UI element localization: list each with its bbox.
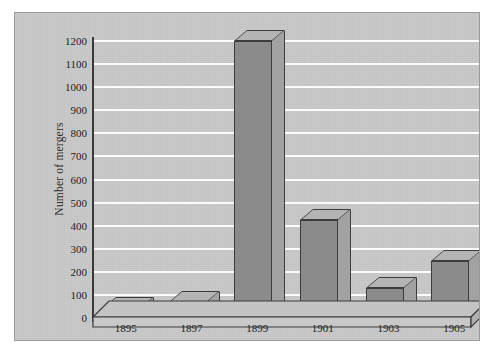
gridline: [93, 271, 480, 273]
figure-container: Number of mergers Year 01002003004005006…: [0, 0, 495, 353]
bar[interactable]: [234, 41, 272, 318]
bar-front-face: [234, 41, 272, 318]
y-axis-tick-label: 500: [71, 197, 88, 209]
gridline: [93, 86, 480, 88]
gridline: [93, 294, 480, 296]
floor-front-edge: [93, 317, 471, 327]
y-axis-tick-label: 300: [71, 243, 88, 255]
gridline: [93, 225, 480, 227]
gridline: [93, 248, 480, 250]
y-axis-tick-label: 700: [71, 150, 88, 162]
gridline: [93, 132, 480, 134]
plot-area: 0100200300400500600700800900100011001200: [93, 41, 480, 318]
gridline: [93, 109, 480, 111]
gridline: [93, 155, 480, 157]
x-axis-tick-label: 1905: [443, 322, 465, 334]
gridline: [93, 63, 480, 65]
y-axis-tick-label: 1200: [65, 35, 87, 47]
y-axis-tick-label: 900: [71, 104, 88, 116]
x-axis-tick-label: 1897: [181, 322, 203, 334]
x-axis-tick-label: 1899: [246, 322, 268, 334]
x-axis-tick-label: 1895: [115, 322, 137, 334]
y-axis-tick-label: 600: [71, 174, 88, 186]
x-axis-tick-label: 1901: [312, 322, 334, 334]
y-axis-tick-label: 1000: [65, 81, 87, 93]
gridline: [93, 179, 480, 181]
x-axis-tick-label: 1903: [378, 322, 400, 334]
y-axis-line: [92, 37, 94, 322]
floor-top-surface: [93, 301, 480, 317]
gridline: [93, 202, 480, 204]
y-axis-tick-label: 400: [71, 220, 88, 232]
floor-slab: [77, 297, 480, 331]
y-axis-title: Number of mergers: [53, 89, 65, 249]
chart-panel: Number of mergers Year 01002003004005006…: [14, 12, 480, 341]
y-axis-tick-label: 200: [71, 266, 88, 278]
y-axis-tick-label: 1100: [65, 58, 87, 70]
y-axis-tick-label: 800: [71, 127, 88, 139]
gridline: [93, 40, 480, 42]
bar-side-face: [272, 30, 285, 318]
